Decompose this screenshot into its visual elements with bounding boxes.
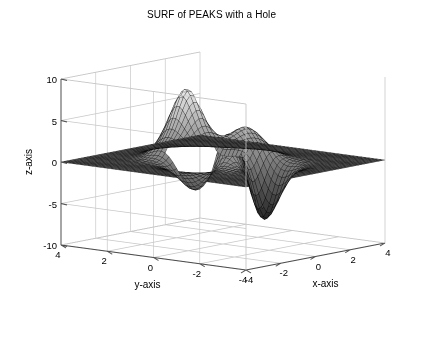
x-tick-0: 0 (316, 260, 321, 271)
z-tick-0: 0 (52, 157, 57, 168)
x-tick-4: 4 (385, 247, 390, 258)
y-tick-2: 2 (102, 255, 107, 266)
z-axis-label: z-axis (23, 149, 34, 175)
x-axis-label: x-axis (312, 277, 338, 288)
x-tick-2: 2 (351, 253, 356, 264)
z-tick--5: -5 (49, 198, 57, 209)
y-tick-0: 0 (148, 261, 153, 272)
z-tick-10: 10 (46, 74, 57, 85)
page-title: SURF of PEAKS with a Hole (0, 9, 423, 20)
x-tick--4: -4 (245, 274, 253, 285)
y-tick-4: 4 (55, 249, 60, 260)
x-tick--2: -2 (280, 267, 288, 278)
y-tick--2: -2 (193, 267, 201, 278)
y-axis-label: y-axis (134, 278, 160, 289)
figure-container: SURF of PEAKS with a Hole 1050-5-10420-2… (0, 0, 423, 343)
z-tick-5: 5 (52, 115, 57, 126)
surface-plot-canvas (0, 0, 423, 343)
